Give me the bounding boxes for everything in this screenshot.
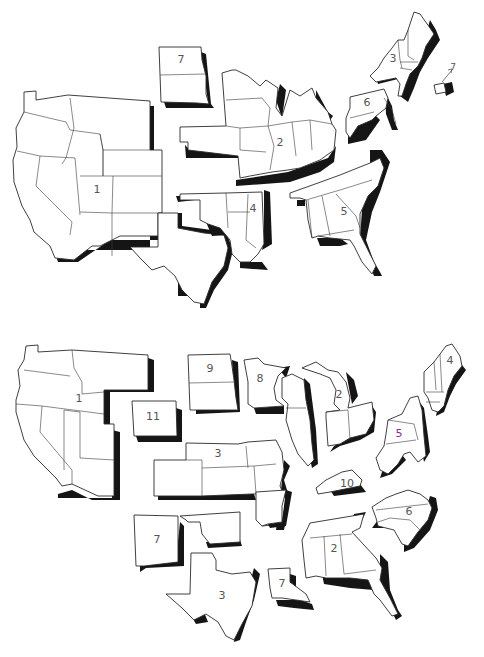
top-label-7-ri: 7 (450, 62, 456, 72)
bottom-label-11: 11 (146, 410, 160, 423)
bottom-region-9-dakotas (188, 354, 240, 414)
top-region-7-ri (434, 69, 454, 96)
bottom-map: 1 11 9 8 3 2 4 5 10 7 6 3 7 2 (16, 344, 466, 642)
bottom-label-2-great-lakes: 2 (336, 388, 343, 401)
top-region-7-dakotas (159, 47, 214, 108)
regional-maps-figure: 1 7 2 4 5 6 3 7 (0, 0, 484, 657)
top-region-1-west (13, 91, 162, 262)
bottom-label-6: 6 (406, 505, 413, 518)
bottom-label-8: 8 (257, 372, 264, 385)
bottom-label-1: 1 (76, 392, 83, 405)
top-label-5: 5 (341, 205, 348, 218)
top-label-6: 6 (364, 96, 371, 109)
bottom-region-wi-il (282, 374, 318, 468)
bottom-label-10: 10 (340, 477, 354, 490)
bottom-region-4-new-england (424, 344, 466, 416)
top-label-1: 1 (94, 183, 101, 196)
bottom-label-2-southeast: 2 (331, 542, 338, 555)
bottom-region-arkansas (256, 490, 292, 528)
bottom-region-7-nm-ok (134, 512, 242, 572)
top-label-7-dakotas: 7 (178, 53, 185, 66)
bottom-label-4: 4 (447, 354, 454, 367)
map-canvas: 1 7 2 4 5 6 3 7 (0, 0, 484, 657)
bottom-region-3-texas (166, 553, 260, 642)
bottom-label-9: 9 (207, 362, 214, 375)
bottom-label-7-nm: 7 (154, 533, 161, 546)
top-label-3: 3 (390, 52, 397, 65)
top-region-6-mid-atlantic (346, 89, 398, 144)
bottom-label-5: 5 (396, 427, 403, 440)
bottom-region-6-carolinas (372, 490, 438, 552)
bottom-label-7-la: 7 (279, 577, 286, 590)
top-map: 1 7 2 4 5 6 3 7 (13, 12, 456, 308)
top-label-2: 2 (277, 136, 284, 149)
bottom-region-5-mid-atlantic (376, 396, 430, 478)
top-label-4: 4 (250, 202, 257, 215)
top-region-3-new-england (370, 12, 440, 102)
bottom-label-3-plains: 3 (215, 447, 222, 460)
pointer-arrow (442, 70, 452, 82)
bottom-label-3-texas: 3 (219, 589, 226, 602)
